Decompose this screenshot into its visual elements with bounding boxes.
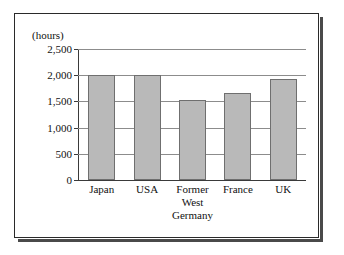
bar-rect bbox=[88, 75, 115, 180]
y-tick-mark bbox=[74, 75, 78, 76]
figure-frame: (hours) 05001,0001,5002,0002,500 JapanUS… bbox=[14, 13, 319, 238]
x-axis-category-labels: JapanUSAFormerWestGermanyFranceUK bbox=[79, 183, 306, 235]
y-tick-mark bbox=[74, 180, 78, 181]
y-axis-unit-label: (hours) bbox=[32, 29, 64, 41]
x-label-line: West bbox=[160, 196, 226, 209]
bar-chart: (hours) 05001,0001,5002,0002,500 JapanUS… bbox=[15, 14, 318, 237]
y-tick-mark bbox=[74, 49, 78, 50]
figure-shadow-right bbox=[320, 17, 323, 242]
figure-shadow-bottom bbox=[18, 239, 323, 242]
x-label-uk: UK bbox=[250, 183, 316, 196]
bar-uk[interactable] bbox=[270, 48, 297, 180]
y-tick-label: 1,500 bbox=[47, 95, 72, 107]
bar-usa[interactable] bbox=[134, 48, 161, 180]
y-tick-mark bbox=[74, 128, 78, 129]
x-label-line: Germany bbox=[160, 209, 226, 222]
bar-rect bbox=[224, 93, 251, 181]
bar-former-west-germany[interactable] bbox=[179, 48, 206, 180]
bar-rect bbox=[134, 75, 161, 180]
bar-france[interactable] bbox=[224, 48, 251, 180]
y-tick-label: 2,000 bbox=[47, 69, 72, 81]
x-label-line: UK bbox=[250, 183, 316, 196]
bar-japan[interactable] bbox=[88, 48, 115, 180]
bar-rect bbox=[270, 79, 297, 180]
y-tick-mark bbox=[74, 154, 78, 155]
bar-rect bbox=[179, 100, 206, 180]
plot-area: 05001,0001,5002,0002,500 bbox=[78, 49, 306, 181]
bars-group bbox=[79, 49, 306, 181]
y-tick-label: 500 bbox=[56, 148, 73, 160]
y-tick-label: 1,000 bbox=[47, 122, 72, 134]
y-tick-mark bbox=[74, 101, 78, 102]
y-tick-label: 2,500 bbox=[47, 43, 72, 55]
